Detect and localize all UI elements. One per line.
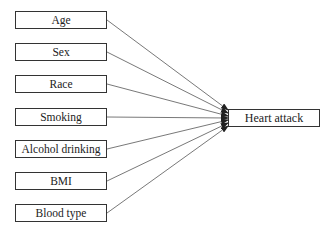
outcome-heart-attack: Heart attack: [228, 109, 320, 127]
factor-sex: Sex: [15, 43, 107, 61]
outcome-label: Heart attack: [245, 111, 303, 126]
factor-label: Smoking: [40, 111, 82, 123]
edge-bmi: [107, 123, 228, 181]
edge-blood: [107, 126, 228, 213]
factor-blood-type: Blood type: [15, 204, 107, 222]
edge-age: [107, 20, 228, 110]
factor-label: Sex: [52, 46, 69, 58]
edge-sex: [107, 52, 228, 113]
factor-label: Blood type: [36, 207, 87, 219]
factor-smoking: Smoking: [15, 108, 107, 126]
edge-alcohol: [107, 120, 228, 149]
factor-label: Race: [50, 78, 73, 90]
edge-race: [107, 84, 228, 116]
factor-label: Age: [51, 14, 70, 26]
factor-age: Age: [15, 11, 107, 29]
factor-alcohol-drinking: Alcohol drinking: [15, 140, 107, 158]
factor-label: Alcohol drinking: [22, 143, 101, 155]
factor-race: Race: [15, 75, 107, 93]
factor-bmi: BMI: [15, 172, 107, 190]
factor-label: BMI: [50, 175, 72, 187]
edge-smoking: [107, 117, 228, 118]
